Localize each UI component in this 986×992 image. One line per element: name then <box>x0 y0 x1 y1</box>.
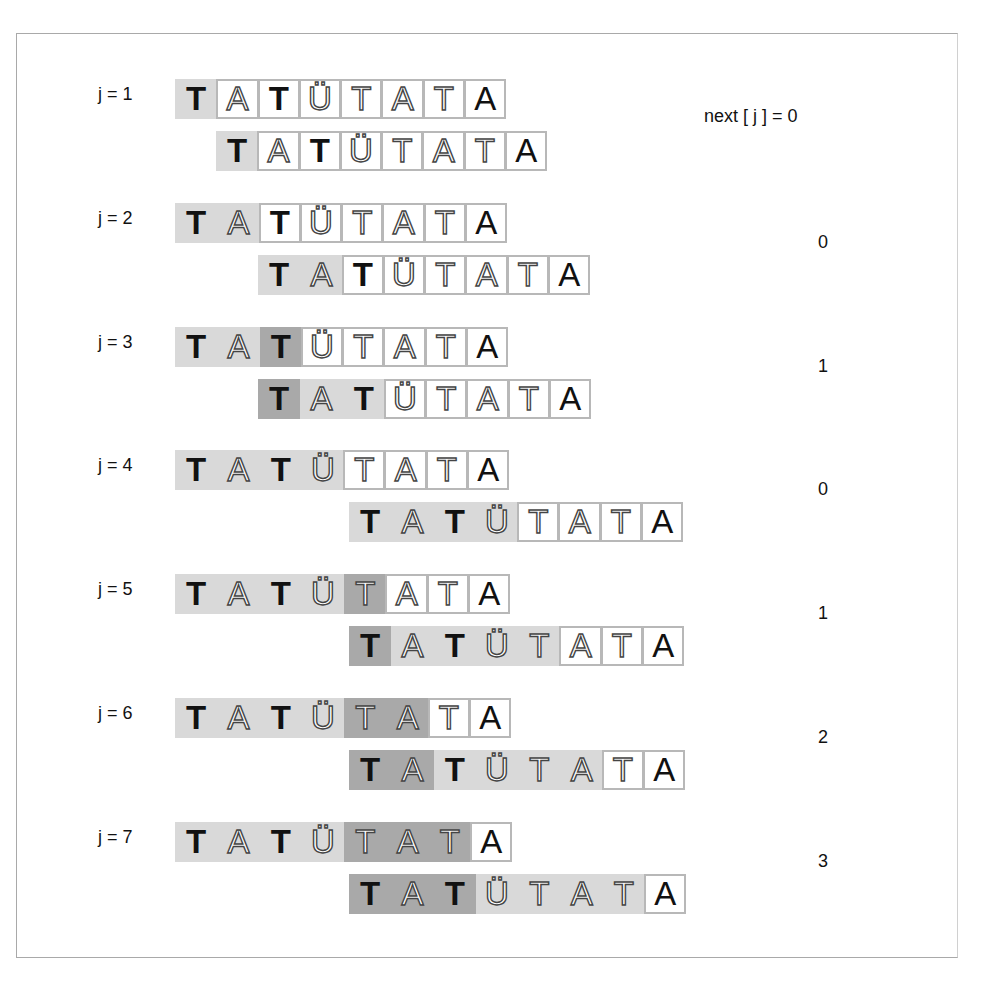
text-cell-3: T <box>260 698 302 738</box>
pattern-cell-7: T <box>464 131 506 171</box>
pattern-char: T <box>360 874 380 914</box>
text-cell-8: A <box>469 698 511 738</box>
pattern-cell-3: T <box>434 626 476 666</box>
j-label: j = 3 <box>98 331 133 353</box>
pattern-char: A <box>571 874 593 914</box>
text-strip: TATÜTATA <box>175 822 512 862</box>
pattern-char: T <box>351 79 371 119</box>
shifted-pattern-strip: TATÜTATA <box>349 874 686 914</box>
j-label: j = 4 <box>98 454 133 476</box>
pattern-cell-4: Ü <box>384 379 426 419</box>
pattern-cell-3: T <box>342 255 384 295</box>
pattern-char: T <box>529 750 549 790</box>
pattern-cell-1: T <box>258 379 300 419</box>
pattern-char: T <box>186 327 206 367</box>
pattern-char: T <box>270 203 290 243</box>
pattern-char: A <box>569 502 591 542</box>
pattern-char: T <box>227 131 247 171</box>
text-cell-6: A <box>385 574 427 614</box>
pattern-char: A <box>571 750 593 790</box>
shifted-pattern-strip: TATÜTATA <box>349 750 685 790</box>
pattern-char: T <box>271 450 291 490</box>
text-strip: TATÜTATA <box>175 450 509 490</box>
pattern-char: Ü <box>485 626 509 666</box>
text-cell-5: T <box>344 698 386 738</box>
pattern-char: Ü <box>311 574 335 614</box>
text-cell-6: A <box>382 203 424 243</box>
pattern-char: A <box>476 255 498 295</box>
pattern-cell-2: A <box>300 379 342 419</box>
pattern-cell-1: T <box>216 131 258 171</box>
pattern-char: T <box>186 574 206 614</box>
pattern-char: A <box>479 698 501 738</box>
pattern-char: T <box>445 502 465 542</box>
text-cell-4: Ü <box>302 450 344 490</box>
pattern-char: T <box>271 822 291 862</box>
text-cell-2: A <box>217 822 259 862</box>
pattern-char: T <box>186 822 206 862</box>
pattern-char: T <box>518 255 538 295</box>
pattern-char: A <box>227 574 249 614</box>
text-cell-1: T <box>175 327 217 367</box>
pattern-char: T <box>437 450 457 490</box>
pattern-char: T <box>612 626 632 666</box>
pattern-char: A <box>654 874 676 914</box>
text-cell-5: T <box>343 450 385 490</box>
pattern-char: T <box>436 379 456 419</box>
pattern-char: A <box>559 379 581 419</box>
pattern-char: Ü <box>311 822 335 862</box>
text-cell-7: T <box>428 698 470 738</box>
text-cell-8: A <box>464 79 506 119</box>
pattern-char: T <box>354 379 374 419</box>
next-value: 1 <box>818 602 828 624</box>
pattern-cell-8: A <box>644 874 686 914</box>
pattern-cell-6: A <box>466 379 508 419</box>
pattern-char: T <box>353 255 373 295</box>
pattern-char: A <box>433 131 455 171</box>
text-cell-2: A <box>217 698 259 738</box>
text-cell-8: A <box>468 574 510 614</box>
pattern-char: Ü <box>485 502 509 542</box>
text-cell-4: Ü <box>300 203 342 243</box>
text-cell-2: A <box>217 574 259 614</box>
text-cell-5: T <box>344 822 386 862</box>
pattern-char: T <box>445 874 465 914</box>
pattern-char: T <box>435 255 455 295</box>
next-value: 0 <box>818 478 828 500</box>
pattern-char: A <box>394 327 416 367</box>
text-strip: TATÜTATA <box>175 574 510 614</box>
next-header: next [ j ] = 0 <box>704 105 798 127</box>
pattern-char: Ü <box>349 131 373 171</box>
pattern-cell-2: A <box>257 131 299 171</box>
text-cell-7: T <box>426 450 468 490</box>
text-cell-6: A <box>384 450 426 490</box>
pattern-cell-8: A <box>641 502 683 542</box>
pattern-cell-2: A <box>300 255 342 295</box>
pattern-char: A <box>227 327 249 367</box>
pattern-char: A <box>652 626 674 666</box>
pattern-char: A <box>226 79 248 119</box>
text-cell-4: Ü <box>302 698 344 738</box>
pattern-char: A <box>474 79 496 119</box>
pattern-cell-6: A <box>559 626 601 666</box>
pattern-char: T <box>392 131 412 171</box>
text-cell-5: T <box>342 327 384 367</box>
pattern-char: A <box>480 822 502 862</box>
text-cell-8: A <box>470 822 512 862</box>
pattern-char: Ü <box>309 203 333 243</box>
pattern-char: A <box>477 379 499 419</box>
pattern-char: T <box>614 874 634 914</box>
pattern-char: A <box>401 750 423 790</box>
pattern-char: T <box>436 327 456 367</box>
pattern-char: A <box>515 131 537 171</box>
shifted-pattern-strip: TATÜTATA <box>258 379 591 419</box>
pattern-char: A <box>475 203 497 243</box>
pattern-char: T <box>438 574 458 614</box>
text-cell-4: Ü <box>302 822 344 862</box>
pattern-cell-8: A <box>642 626 684 666</box>
pattern-char: Ü <box>311 450 335 490</box>
pattern-cell-1: T <box>349 874 391 914</box>
pattern-char: A <box>392 79 414 119</box>
pattern-char: T <box>434 79 454 119</box>
pattern-char: Ü <box>392 255 416 295</box>
